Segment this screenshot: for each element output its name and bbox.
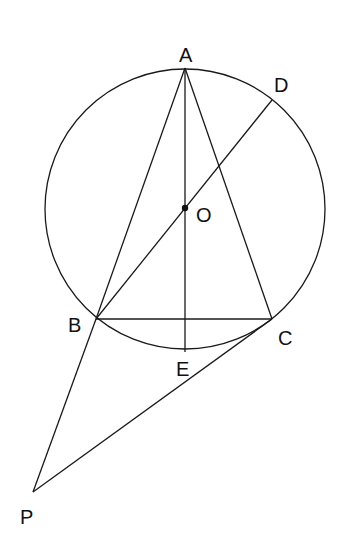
segment-ab [96, 68, 185, 319]
label-a: A [179, 44, 193, 66]
label-o: O [196, 204, 212, 226]
segment-ac [185, 68, 272, 319]
segment-bp [33, 319, 96, 492]
center-point-o [182, 205, 188, 211]
label-d: D [274, 74, 288, 96]
label-b: B [68, 314, 81, 336]
label-e: E [176, 358, 189, 380]
label-p: P [20, 506, 33, 528]
geometry-diagram: A D O B C E P [0, 0, 342, 553]
label-c: C [278, 327, 292, 349]
